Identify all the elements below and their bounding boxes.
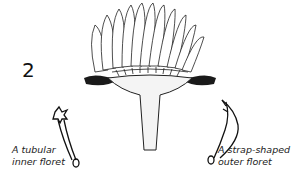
ray-petals [92,3,205,72]
label-tubular-inner-floret: A tubular inner floret [12,144,65,168]
receptacle [108,75,192,150]
label-strap-shaped-outer-floret: A strap-shaped outer floret [218,144,290,168]
